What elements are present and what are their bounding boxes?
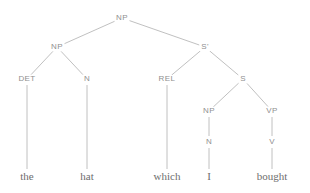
terminal-w-the: the xyxy=(18,171,35,182)
node-n-hat: N xyxy=(82,75,91,83)
tree-edge-np-left-to-det xyxy=(31,51,53,74)
node-sbar: S' xyxy=(200,43,211,51)
tree-edge-np-root-to-np-left xyxy=(62,20,116,44)
tree-edge-sbar-to-rel xyxy=(172,51,201,75)
node-n-i: N xyxy=(204,138,213,146)
terminal-w-which: which xyxy=(152,171,183,182)
node-vp: VP xyxy=(265,107,279,115)
terminal-w-bought: bought xyxy=(255,171,290,182)
tree-branch-lines xyxy=(0,0,310,193)
node-det: DET xyxy=(17,75,37,83)
node-rel: REL xyxy=(157,75,177,83)
node-s: S xyxy=(239,75,248,83)
terminal-w-hat: hat xyxy=(78,171,95,182)
tree-edge-np-root-to-sbar xyxy=(128,20,200,45)
node-v: V xyxy=(268,138,277,146)
tree-edge-np-left-to-n-hat xyxy=(61,51,83,74)
node-np-sub: NP xyxy=(202,107,217,115)
node-np-root: NP xyxy=(115,14,130,22)
terminal-w-i: I xyxy=(205,171,213,182)
tree-edge-s-to-vp xyxy=(247,83,268,106)
tree-edge-s-to-np-sub xyxy=(213,83,238,107)
node-np-left: NP xyxy=(50,43,65,51)
syntax-tree-figure: NPNPS'DETNRELSNPVPNVthehatwhichIbought xyxy=(0,0,310,193)
tree-edge-sbar-to-s xyxy=(210,51,239,75)
